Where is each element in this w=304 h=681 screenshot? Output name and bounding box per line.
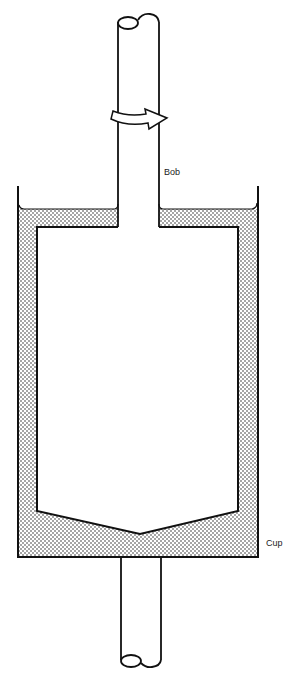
viscometer-diagram: [0, 0, 304, 681]
fluid-surface: [19, 203, 257, 209]
lower-shaft: [121, 558, 161, 667]
bob-label: Bob: [164, 167, 180, 177]
bob: [37, 227, 238, 534]
cup-label: Cup: [266, 538, 283, 548]
